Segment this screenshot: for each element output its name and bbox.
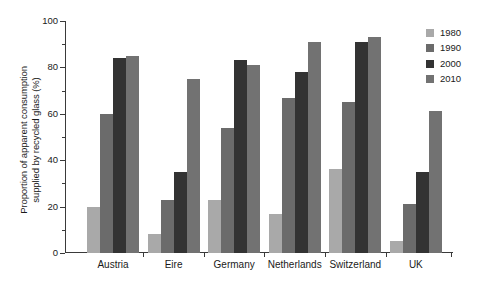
legend-item-1990: 1990 [426, 42, 461, 55]
legend-swatch-icon [426, 60, 434, 68]
bar-uk-1980 [390, 241, 403, 253]
x-label-germany: Germany [214, 260, 255, 270]
y-tick-label: 0 [53, 248, 58, 258]
bar-eire-1980 [148, 234, 161, 253]
y-tick-label: 60 [47, 109, 58, 119]
bar-netherlands-2000 [295, 72, 308, 253]
bar-eire-2010 [187, 79, 200, 253]
bar-netherlands-1990 [282, 98, 295, 253]
bar-eire-2000 [174, 172, 187, 253]
x-label-netherlands: Netherlands [268, 260, 322, 270]
legend-swatch-icon [426, 29, 434, 37]
bar-switzerland-1990 [342, 102, 355, 253]
bar-netherlands-2010 [308, 42, 321, 253]
bar-series-container [65, 21, 453, 253]
bar-austria-1980 [87, 207, 100, 253]
y-tick-label: 80 [47, 63, 58, 73]
bar-germany-1990 [221, 128, 234, 253]
y-tick-label: 100 [42, 16, 58, 26]
legend-label: 2000 [440, 59, 461, 69]
bar-switzerland-1980 [329, 169, 342, 253]
legend-item-2000: 2000 [426, 57, 461, 70]
bar-austria-2000 [113, 58, 126, 253]
legend-label: 2010 [440, 74, 461, 84]
legend-swatch-icon [426, 44, 434, 52]
legend-swatch-icon [426, 75, 434, 83]
bar-germany-1980 [208, 200, 221, 253]
x-tick [386, 253, 387, 257]
y-tick-major [60, 253, 65, 254]
bar-switzerland-2000 [355, 42, 368, 253]
x-label-switzerland: Switzerland [329, 260, 381, 270]
bar-eire-1990 [161, 200, 174, 253]
legend-item-1980: 1980 [426, 26, 461, 39]
legend: 1980199020002010 [426, 26, 461, 88]
x-tick [451, 253, 452, 257]
legend-label: 1980 [440, 28, 461, 38]
y-tick-label: 40 [47, 155, 58, 165]
x-label-uk: UK [409, 260, 423, 270]
bar-chart: Proportion of apparent consumption suppl… [0, 0, 489, 290]
legend-label: 1990 [440, 43, 461, 53]
bar-switzerland-2010 [368, 37, 381, 253]
bar-uk-2000 [416, 172, 429, 253]
y-tick-label: 20 [47, 202, 58, 212]
bar-austria-2010 [126, 56, 139, 253]
plot-area: 020406080100 [65, 21, 453, 253]
bar-netherlands-1980 [269, 214, 282, 253]
x-tick [204, 253, 205, 257]
bar-germany-2010 [247, 65, 260, 253]
legend-item-2010: 2010 [426, 73, 461, 86]
x-tick [143, 253, 144, 257]
x-label-eire: Eire [165, 260, 183, 270]
bar-uk-1990 [403, 204, 416, 253]
x-label-austria: Austria [97, 260, 128, 270]
y-axis-title: Proportion of apparent consumption suppl… [18, 25, 42, 255]
bar-germany-2000 [234, 60, 247, 253]
x-tick [264, 253, 265, 257]
bar-austria-1990 [100, 114, 113, 253]
bar-uk-2010 [429, 111, 442, 253]
x-tick [325, 253, 326, 257]
